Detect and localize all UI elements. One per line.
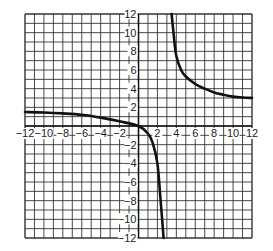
- x-axis-tick-labels: −12−10−8−6−4−224681012: [15, 127, 258, 139]
- x-tick-label: 10: [227, 127, 239, 139]
- x-tick-label: 6: [192, 127, 198, 139]
- x-tick-label: −12: [16, 127, 35, 139]
- x-tick-label: −10: [35, 127, 54, 139]
- y-tick-label: 2: [130, 101, 136, 113]
- x-tick-label: 8: [211, 127, 217, 139]
- curve-right-branch: [172, 14, 252, 98]
- x-tick-label: 12: [246, 127, 258, 139]
- y-tick-label: −6: [124, 176, 137, 188]
- y-tick-label: −4: [124, 157, 137, 169]
- y-tick-label: −8: [124, 195, 137, 207]
- y-tick-label: 12: [124, 8, 136, 20]
- graph-plot: −12−10−8−6−4−224681012 12108642−2−4−6−8−…: [0, 0, 273, 251]
- x-tick-label: −4: [94, 127, 107, 139]
- y-tick-label: 6: [130, 64, 136, 76]
- y-tick-label: −2: [124, 139, 137, 151]
- x-tick-label: 4: [173, 127, 179, 139]
- y-tick-label: −12: [118, 232, 137, 244]
- x-tick-label: −8: [57, 127, 70, 139]
- x-tick-label: 2: [154, 127, 160, 139]
- y-tick-label: 4: [130, 83, 136, 95]
- y-tick-label: 10: [124, 27, 136, 39]
- y-tick-label: 8: [130, 45, 136, 57]
- y-tick-label: −10: [118, 213, 137, 225]
- x-tick-label: −6: [75, 127, 88, 139]
- x-tick-label: −2: [113, 127, 126, 139]
